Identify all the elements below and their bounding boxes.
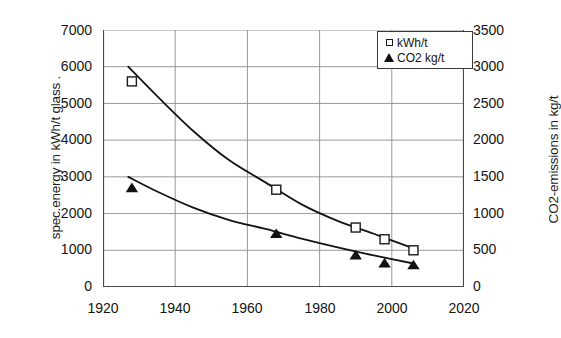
- y-right-tick-1000: 1000: [473, 205, 521, 221]
- y-right-tick-500: 500: [473, 241, 521, 257]
- marker-kwh: [272, 185, 281, 194]
- y-right-tick-2500: 2500: [473, 95, 521, 111]
- open-square-icon: [382, 39, 396, 46]
- trend-lines: [128, 67, 413, 264]
- marker-kwh: [127, 77, 136, 86]
- data-markers: [126, 77, 420, 269]
- y-left-tick-3000: 3000: [44, 168, 92, 184]
- x-tick-1920: 1920: [73, 300, 133, 316]
- marker-kwh: [351, 223, 360, 232]
- y-right-tick-0: 0: [473, 278, 521, 294]
- y-axis-right-title: CO2-emissions in kg/t: [546, 45, 561, 275]
- y-right-tick-3500: 3500: [473, 22, 521, 38]
- marker-kwh: [409, 246, 418, 255]
- y-left-tick-7000: 7000: [44, 22, 92, 38]
- x-tick-1940: 1940: [145, 300, 205, 316]
- y-right-tick-2000: 2000: [473, 131, 521, 147]
- y-right-tick-3000: 3000: [473, 58, 521, 74]
- filled-triangle-icon: [382, 53, 396, 62]
- x-tick-1980: 1980: [290, 300, 350, 316]
- marker-co2: [126, 183, 138, 193]
- x-tick-2000: 2000: [362, 300, 422, 316]
- y-right-tick-1500: 1500: [473, 168, 521, 184]
- legend-item-co2: CO2 kg/t: [382, 50, 468, 65]
- y-left-tick-4000: 4000: [44, 131, 92, 147]
- marker-co2: [407, 260, 419, 270]
- y-left-tick-5000: 5000: [44, 95, 92, 111]
- y-axis-left-title: spec.energy in kWh/t glass .: [48, 43, 63, 273]
- legend: kWh/t CO2 kg/t: [377, 31, 473, 69]
- y-left-tick-0: 0: [44, 278, 92, 294]
- legend-item-kwh: kWh/t: [382, 35, 468, 50]
- x-tick-1960: 1960: [217, 300, 277, 316]
- y-left-tick-1000: 1000: [44, 241, 92, 257]
- legend-label-kwh: kWh/t: [396, 36, 428, 50]
- marker-kwh: [380, 235, 389, 244]
- x-tick-2020: 2020: [434, 300, 494, 316]
- y-left-tick-2000: 2000: [44, 205, 92, 221]
- legend-label-co2: CO2 kg/t: [396, 51, 444, 65]
- y-left-tick-6000: 6000: [44, 58, 92, 74]
